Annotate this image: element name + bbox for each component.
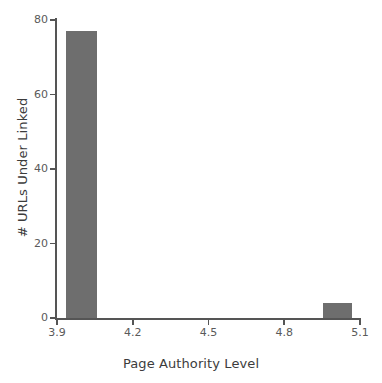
x-tick-label: 5.1 [351,327,369,338]
x-tick-mark [56,320,58,325]
y-tick-mark [50,19,55,21]
x-tick-mark [132,320,134,325]
x-tick-label: 4.8 [276,327,294,338]
plot-area [57,20,360,318]
x-axis-label: Page Authority Level [0,356,382,371]
x-tick-label: 3.9 [48,327,66,338]
x-tick-mark [283,320,285,325]
y-tick-label: 40 [34,163,48,174]
x-tick-mark [359,320,361,325]
x-tick-mark [208,320,210,325]
bar [323,303,352,318]
y-tick-label: 20 [34,238,48,249]
y-tick-mark [50,94,55,96]
y-tick-label: 80 [34,14,48,25]
y-tick-mark [50,317,55,319]
chart-figure: 020406080 3.94.24.54.85.1 Page Authority… [0,0,382,383]
x-tick-label: 4.5 [200,327,218,338]
bar [66,31,98,318]
y-axis-label: # URLs Under Linked [15,68,30,268]
x-tick-label: 4.2 [124,327,142,338]
y-tick-mark [50,168,55,170]
y-tick-label: 60 [34,89,48,100]
y-tick-label: 0 [41,312,48,323]
y-tick-mark [50,243,55,245]
